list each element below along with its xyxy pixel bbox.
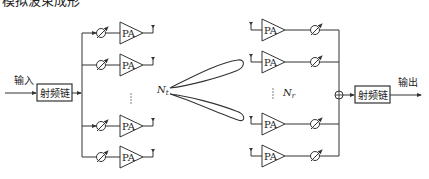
phase-shifter-icon: [311, 152, 320, 161]
antenna-icon: [151, 149, 155, 152]
rx-branch: PA: [249, 19, 339, 41]
tx-ellipsis-dots: [130, 93, 131, 103]
tx-branch: PA: [82, 146, 155, 168]
pa-label: PA: [122, 28, 136, 39]
phase-shifter-icon: [311, 26, 320, 35]
antenna-icon: [151, 25, 155, 28]
rx-branch: PA: [249, 145, 339, 167]
pa-label: PA: [122, 60, 136, 71]
pa-label: PA: [122, 152, 136, 163]
antenna-icon: [151, 118, 155, 121]
tx-branch: PA: [82, 115, 155, 137]
pa-label: PA: [264, 57, 278, 68]
beam-pattern: [170, 60, 244, 121]
rx-branch: PA: [249, 51, 339, 73]
beam-lobe-lower: [170, 94, 244, 121]
caption-partial: 模拟波束成形: [2, 0, 80, 8]
tx-rf-chain-label: 射频链: [40, 87, 70, 99]
antenna-icon: [151, 57, 155, 60]
phase-shifter-icon: [311, 58, 320, 67]
phase-shifter-icon: [97, 29, 106, 38]
phase-shifter-icon: [97, 61, 106, 70]
transmitter: 输入 射频链 PA PA: [5, 22, 169, 168]
pa-label: PA: [122, 121, 136, 132]
tx-antenna-count-label: Nt: [156, 84, 169, 97]
input-label: 输入: [14, 74, 34, 86]
rx-rf-chain-label: 射频链: [358, 89, 388, 101]
pa-label: PA: [264, 151, 278, 162]
output-label: 输出: [398, 76, 418, 88]
rx-branch: PA: [249, 113, 339, 135]
rx-antenna-count-label: Nr: [282, 87, 296, 100]
beam-lobe-upper: [170, 60, 243, 88]
pa-label: PA: [264, 119, 278, 130]
tx-branch: PA: [82, 54, 155, 76]
phase-shifter-icon: [97, 153, 106, 162]
receiver: PA PA Nr PA: [249, 19, 421, 167]
rx-ellipsis-dots: [272, 88, 273, 98]
tx-branch: PA: [82, 22, 155, 44]
phase-shifter-icon: [311, 120, 320, 129]
analog-beamforming-diagram: 模拟波束成形 输入 射频链 PA PA: [0, 0, 429, 179]
pa-label: PA: [264, 25, 278, 36]
phase-shifter-icon: [97, 122, 106, 131]
